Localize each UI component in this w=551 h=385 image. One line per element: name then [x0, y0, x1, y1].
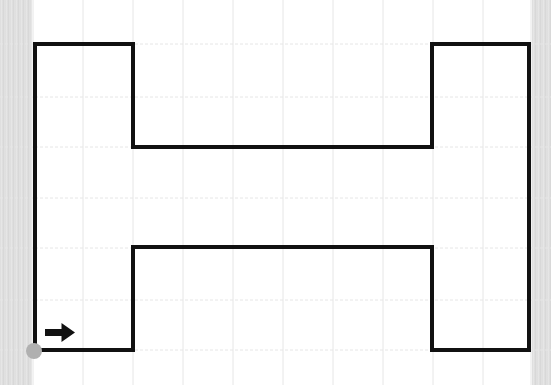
arrow-right-icon	[45, 323, 75, 342]
board-canvas	[0, 0, 551, 385]
puzzle-board	[0, 0, 551, 385]
maze-path	[35, 44, 529, 350]
start-marker[interactable]	[26, 343, 42, 359]
grid-lines	[0, 0, 551, 385]
